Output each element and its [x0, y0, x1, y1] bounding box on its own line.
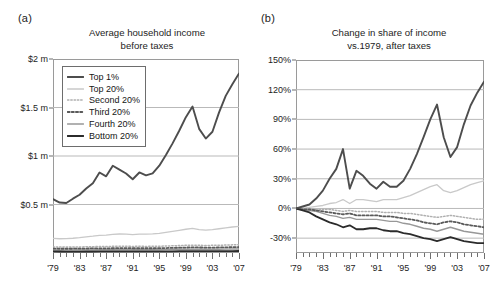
- y-axis-tick-mark: [49, 204, 53, 205]
- panel-b-title: Change in share of income vs.1979, after…: [294, 27, 484, 52]
- legend-item: Bottom 20%: [67, 130, 140, 142]
- legend-item-label: Top 1%: [89, 72, 119, 82]
- y-axis-tick-label: $2 m: [28, 54, 48, 64]
- y-axis-tick-label: 0%: [278, 203, 291, 213]
- y-axis-tick-label: $1.5 m: [20, 103, 48, 113]
- x-axis-major-tick-mark: [457, 253, 458, 259]
- x-axis-major-tick-mark: [350, 253, 351, 259]
- x-axis-tick-label: '99: [180, 263, 192, 273]
- x-axis-minor-tick-mark: [146, 253, 147, 257]
- figure-container: (a) Average household income before taxe…: [0, 0, 498, 288]
- x-axis-minor-tick-mark: [316, 253, 317, 257]
- x-axis-minor-tick-mark: [179, 253, 180, 257]
- x-axis-tick-label: '03: [451, 263, 463, 273]
- x-axis-tick-label: '83: [317, 263, 329, 273]
- x-axis-major-tick-mark: [296, 253, 297, 259]
- y-axis-tick-label: $0.5 m: [20, 200, 48, 210]
- x-axis-minor-tick-mark: [450, 253, 451, 257]
- panel-b-title-line1: Change in share of income: [294, 27, 484, 40]
- x-axis-minor-tick-mark: [437, 253, 438, 257]
- x-axis-major-tick-mark: [133, 253, 134, 259]
- legend-line-swatch-icon: [67, 132, 84, 140]
- legend-item: Third 20%: [67, 106, 140, 118]
- legend-item-label: Third 20%: [89, 107, 130, 117]
- legend-line-swatch-icon: [67, 96, 84, 104]
- x-axis-minor-tick-mark: [119, 253, 120, 257]
- y-axis-tick-label: 90%: [273, 114, 291, 124]
- x-axis-tick-label: '99: [424, 263, 436, 273]
- x-axis-minor-tick-mark: [390, 253, 391, 257]
- panel-a: (a) Average household income before taxe…: [0, 0, 249, 288]
- legend-item-label: Bottom 20%: [89, 131, 138, 141]
- x-axis-major-tick-mark: [53, 253, 54, 259]
- x-axis-tick-label: '07: [478, 263, 490, 273]
- x-axis-minor-tick-mark: [93, 253, 94, 257]
- x-axis-major-tick-mark: [239, 253, 240, 259]
- y-axis-tick-mark: [49, 156, 53, 157]
- legend-item-label: Top 20%: [89, 84, 124, 94]
- y-axis-tick-mark: [292, 119, 296, 120]
- x-axis-minor-tick-mark: [139, 253, 140, 257]
- legend-item: Top 1%: [67, 71, 140, 83]
- x-axis-major-tick-mark: [106, 253, 107, 259]
- x-axis-minor-tick-mark: [73, 253, 74, 257]
- panel-a-title: Average household income before taxes: [52, 27, 242, 52]
- x-axis-tick-label: '79: [47, 263, 59, 273]
- legend-item-label: Second 20%: [89, 95, 140, 105]
- x-axis-minor-tick-mark: [173, 253, 174, 257]
- legend-line-swatch-icon: [67, 120, 84, 128]
- y-axis-tick-mark: [49, 107, 53, 108]
- x-axis-major-tick-mark: [159, 253, 160, 259]
- legend-item: Fourth 20%: [67, 118, 140, 130]
- x-axis-minor-tick-mark: [199, 253, 200, 257]
- x-axis-tick-label: '91: [127, 263, 139, 273]
- x-axis-minor-tick-mark: [464, 253, 465, 257]
- x-axis-minor-tick-mark: [471, 253, 472, 257]
- legend-item: Top 20%: [67, 83, 140, 95]
- x-axis-tick-label: '07: [233, 263, 245, 273]
- x-axis-minor-tick-mark: [477, 253, 478, 257]
- legend: Top 1%Top 20%Second 20%Third 20%Fourth 2…: [62, 66, 146, 147]
- x-axis-tick-label: '87: [344, 263, 356, 273]
- panel-b-plot-area: 150%120%90%60%30%0%-30%'79'83'87'91'95'9…: [296, 60, 484, 253]
- x-axis-minor-tick-mark: [113, 253, 114, 257]
- x-axis-minor-tick-mark: [424, 253, 425, 257]
- x-axis-minor-tick-mark: [193, 253, 194, 257]
- x-axis-major-tick-mark: [484, 253, 485, 259]
- y-axis-tick-mark: [292, 178, 296, 179]
- y-axis-tick-mark: [292, 149, 296, 150]
- x-axis-tick-label: '95: [153, 263, 165, 273]
- panel-b-title-line2: vs.1979, after taxes: [294, 40, 484, 53]
- x-axis-minor-tick-mark: [383, 253, 384, 257]
- legend-line-swatch-icon: [67, 85, 84, 93]
- x-axis-tick-label: '83: [74, 263, 86, 273]
- x-axis-minor-tick-mark: [363, 253, 364, 257]
- x-axis-tick-label: '95: [398, 263, 410, 273]
- y-axis-tick-label: 30%: [273, 174, 291, 184]
- y-axis-tick-mark: [292, 238, 296, 239]
- y-axis-tick-label: $1 m: [28, 151, 48, 161]
- x-axis-tick-label: '03: [207, 263, 219, 273]
- panel-b-label: (b): [261, 12, 275, 24]
- x-axis-minor-tick-mark: [166, 253, 167, 257]
- x-axis-major-tick-mark: [186, 253, 187, 259]
- x-axis-major-tick-mark: [377, 253, 378, 259]
- x-axis-minor-tick-mark: [343, 253, 344, 257]
- x-axis-minor-tick-mark: [370, 253, 371, 257]
- x-axis-minor-tick-mark: [417, 253, 418, 257]
- y-axis-tick-label: 150%: [268, 55, 291, 65]
- x-axis-minor-tick-mark: [232, 253, 233, 257]
- x-axis-minor-tick-mark: [153, 253, 154, 257]
- x-axis-minor-tick-mark: [309, 253, 310, 257]
- x-axis-major-tick-mark: [430, 253, 431, 259]
- y-axis-tick-label: 60%: [273, 144, 291, 154]
- y-axis-tick-mark: [292, 208, 296, 209]
- panel-b: (b) Change in share of income vs.1979, a…: [249, 0, 498, 288]
- x-axis-minor-tick-mark: [206, 253, 207, 257]
- x-axis-tick-label: '87: [100, 263, 112, 273]
- x-axis-major-tick-mark: [212, 253, 213, 259]
- legend-line-swatch-icon: [67, 108, 84, 116]
- panel-b-lines: [296, 60, 484, 253]
- x-axis-minor-tick-mark: [356, 253, 357, 257]
- x-axis-minor-tick-mark: [86, 253, 87, 257]
